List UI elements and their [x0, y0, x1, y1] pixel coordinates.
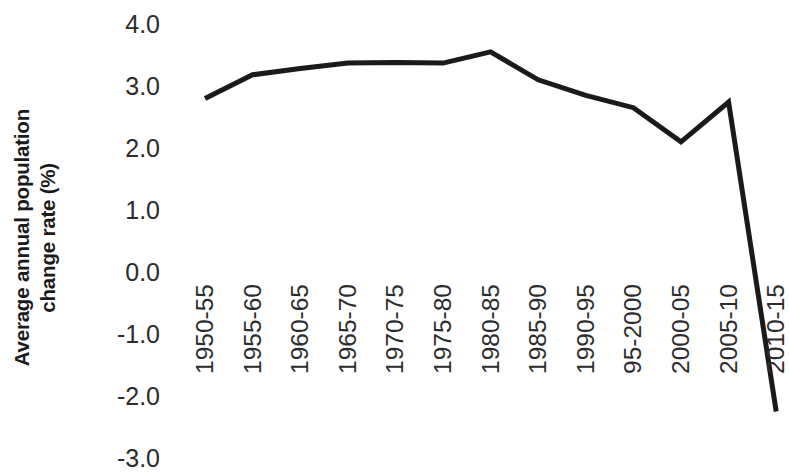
y-axis-title-line-2: change rate (%): [38, 163, 59, 313]
chart-container: Average annual population change rate (%…: [0, 0, 789, 476]
y-axis-title-line-1: Average annual population: [12, 109, 33, 366]
y-axis-tick-label: 1.0: [76, 198, 160, 223]
y-axis-tick-labels: 4.03.02.01.00.0-1.0-2.0-3.0: [76, 0, 160, 476]
y-axis-tick-label: -3.0: [76, 446, 160, 471]
data-series-line: [205, 52, 776, 412]
plot-area: [170, 0, 789, 476]
y-axis-tick-label: -2.0: [76, 384, 160, 409]
y-axis-tick-label: 3.0: [76, 74, 160, 99]
y-axis-tick-label: 0.0: [76, 260, 160, 285]
y-axis-tick-label: -1.0: [76, 322, 160, 347]
y-axis-tick-label: 4.0: [76, 12, 160, 37]
y-axis-tick-label: 2.0: [76, 136, 160, 161]
data-line-svg: [170, 0, 789, 476]
